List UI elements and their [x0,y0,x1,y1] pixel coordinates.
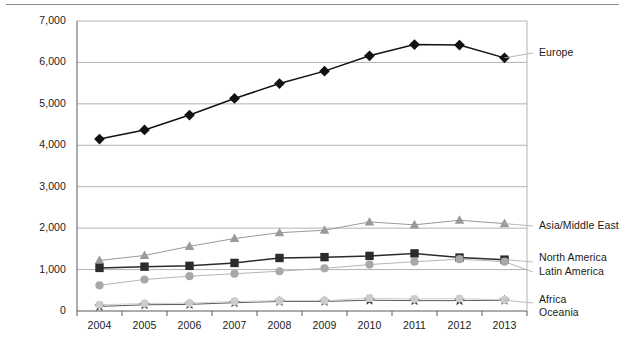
x-axis-tick-label: 2004 [76,319,124,331]
x-axis-tick-label: 2010 [346,319,394,331]
x-axis-tick-label: 2011 [391,319,439,331]
x-axis-ticks [77,311,527,316]
x-axis-tick-label: 2009 [301,319,349,331]
x-axis-tick-label: 2007 [211,319,259,331]
legend-label-north-america: North America [539,251,607,263]
legend-leader-lines [505,53,534,303]
y-axis-tick-label: 1,000 [8,263,66,275]
series-lines [100,45,505,307]
x-axis-tick-label: 2012 [436,319,484,331]
chart-plot-area [0,0,625,354]
x-axis-tick-label: 2013 [481,319,529,331]
y-axis-tick-label: 6,000 [8,55,66,67]
x-axis-tick-label: 2005 [121,319,169,331]
legend-label-africa: Africa [539,293,566,305]
chart-container: 01,0002,0003,0004,0005,0006,0007,000 200… [0,0,625,354]
x-axis-tick-label: 2006 [166,319,214,331]
y-axis-tick-label: 7,000 [8,14,66,26]
legend-label-europe: Europe [539,46,573,58]
y-axis-tick-label: 3,000 [8,180,66,192]
legend-label-asia-middle-east: Asia/Middle East [539,219,619,231]
y-axis-tick-label: 5,000 [8,97,66,109]
y-axis-tick-label: 4,000 [8,138,66,150]
y-axis-tick-label: 2,000 [8,221,66,233]
legend-label-oceania: Oceania [539,306,579,318]
y-axis-tick-label: 0 [8,304,66,316]
x-axis-tick-label: 2008 [256,319,304,331]
legend-label-latin-america: Latin America [539,265,604,277]
